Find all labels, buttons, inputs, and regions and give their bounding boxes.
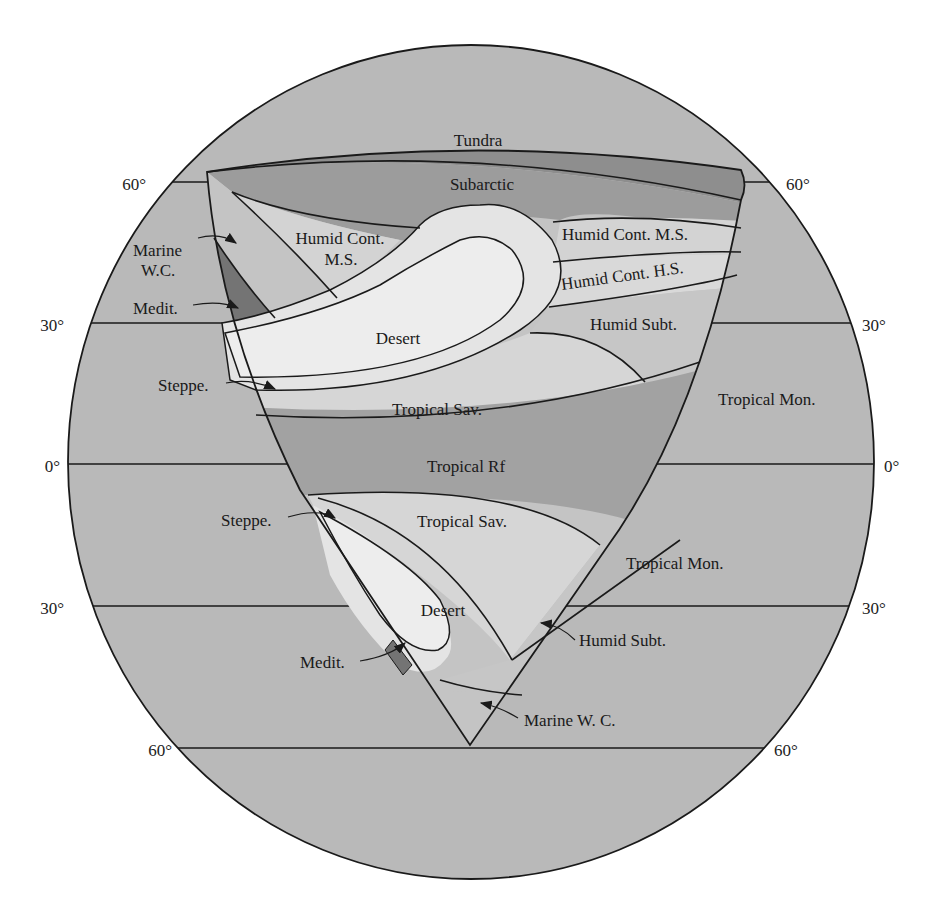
label-marine-wc-s: Marine W. C. xyxy=(524,711,616,730)
label-humid-subt-n: Humid Subt. xyxy=(590,315,677,334)
svg-text:30°: 30° xyxy=(40,316,64,335)
label-subarctic: Subarctic xyxy=(450,175,515,194)
label-humid-cont-ms-w2: M.S. xyxy=(324,250,357,269)
label-medit-s: Medit. xyxy=(300,653,345,672)
label-humid-subt-s: Humid Subt. xyxy=(579,631,666,650)
label-tropical-sav-n: Tropical Sav. xyxy=(392,400,482,419)
label-tropical-sav-s: Tropical Sav. xyxy=(417,512,507,531)
label-tropical-mon-n: Tropical Mon. xyxy=(718,390,816,409)
label-humid-cont-ms-w1: Humid Cont. xyxy=(296,229,385,248)
svg-text:60°: 60° xyxy=(774,741,798,760)
label-desert-s: Desert xyxy=(421,601,466,620)
label-desert-n: Desert xyxy=(376,329,421,348)
label-marine-wc-1: Marine xyxy=(133,241,182,260)
svg-text:0°: 0° xyxy=(45,457,60,476)
svg-text:60°: 60° xyxy=(122,175,146,194)
label-steppe-s: Steppe. xyxy=(221,511,272,530)
label-medit-n: Medit. xyxy=(133,299,178,318)
label-tropical-mon-s: Tropical Mon. xyxy=(626,554,724,573)
svg-text:30°: 30° xyxy=(40,599,64,618)
svg-text:30°: 30° xyxy=(862,599,886,618)
climate-diagram: 60° 30° 0° 30° 60° 60° 30° 0° 30° 60° Tu… xyxy=(0,0,935,921)
label-humid-cont-ms-east: Humid Cont. M.S. xyxy=(562,225,688,244)
svg-text:0°: 0° xyxy=(884,457,899,476)
label-tropical-rf: Tropical Rf xyxy=(427,457,506,476)
label-steppe-n: Steppe. xyxy=(158,376,209,395)
svg-text:60°: 60° xyxy=(148,741,172,760)
label-tundra: Tundra xyxy=(454,131,503,150)
svg-text:30°: 30° xyxy=(862,316,886,335)
label-marine-wc-2: W.C. xyxy=(141,261,175,280)
svg-text:60°: 60° xyxy=(786,175,810,194)
